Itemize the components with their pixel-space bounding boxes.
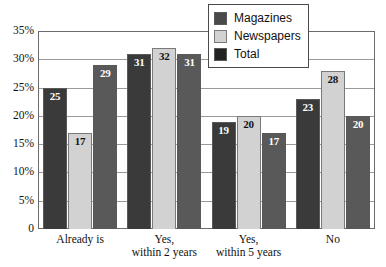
legend-swatch-icon <box>214 30 227 43</box>
y-axis-tick-label: 25% <box>0 82 34 93</box>
x-axis-category-label: No <box>291 233 375 259</box>
x-axis-category-label: Yes,within 5 years <box>207 233 291 259</box>
y-axis-tick-label: 10% <box>0 166 34 177</box>
bar-value-label: 17 <box>263 135 285 147</box>
x-axis-label-line1: Yes, <box>239 233 259 245</box>
bar-value-label: 19 <box>213 124 235 136</box>
x-axis: Already isYes,within 2 yearsYes,within 5… <box>38 233 375 259</box>
x-axis-label-line1: Already is <box>56 233 104 245</box>
bar-groups: 251729313231192017232820 <box>38 31 375 229</box>
legend-item[interactable]: Magazines <box>214 9 301 27</box>
bar[interactable]: 29 <box>93 65 117 229</box>
x-axis-label-line1: Yes, <box>155 233 175 245</box>
legend-item[interactable]: Total <box>214 45 301 63</box>
bar[interactable]: 20 <box>346 116 370 229</box>
y-axis-tick-label: 30% <box>0 53 34 64</box>
bar-slot: 31 <box>127 31 151 229</box>
x-axis-label-line2: within 2 years <box>122 246 206 259</box>
bar[interactable]: 23 <box>296 99 320 229</box>
bar-value-label: 29 <box>94 67 116 79</box>
bar[interactable]: 31 <box>127 54 151 229</box>
legend-item[interactable]: Newspapers <box>214 27 301 45</box>
bar-slot: 25 <box>43 31 67 229</box>
chart-legend: MagazinesNewspapersTotal <box>208 4 309 68</box>
bar-slot: 31 <box>177 31 201 229</box>
bar[interactable]: 32 <box>152 48 176 229</box>
x-axis-label-line1: No <box>326 233 340 245</box>
x-axis-category-label: Yes,within 2 years <box>122 233 206 259</box>
y-axis-tick-label: 20% <box>0 110 34 121</box>
bar-slot: 32 <box>152 31 176 229</box>
y-axis-tick-label: 35% <box>0 25 34 36</box>
bar-value-label: 28 <box>322 73 344 85</box>
legend-item-label: Total <box>234 48 259 61</box>
legend-item-label: Newspapers <box>234 30 301 43</box>
bar-value-label: 25 <box>44 90 66 102</box>
bar[interactable]: 20 <box>237 116 261 229</box>
bar-group: 251729 <box>38 31 122 229</box>
bar-slot: 17 <box>68 31 92 229</box>
bar-value-label: 17 <box>69 135 91 147</box>
bar[interactable]: 17 <box>68 133 92 229</box>
bar-value-label: 32 <box>153 50 175 62</box>
legend-swatch-icon <box>214 48 227 61</box>
bar-slot: 28 <box>321 31 345 229</box>
bar[interactable]: 28 <box>321 71 345 229</box>
y-axis-tick-label: 0 <box>0 223 34 234</box>
bar-group: 313231 <box>122 31 206 229</box>
bar-slot: 29 <box>93 31 117 229</box>
bar[interactable]: 19 <box>212 122 236 229</box>
legend-swatch-icon <box>214 12 227 25</box>
bar-value-label: 20 <box>347 118 369 130</box>
bar-chart: 35%30%25%20%15%10%5%0 251729313231192017… <box>0 0 386 267</box>
y-axis-tick-label: 5% <box>0 195 34 206</box>
bar-slot: 20 <box>346 31 370 229</box>
bar-value-label: 31 <box>178 56 200 68</box>
bar-value-label: 20 <box>238 118 260 130</box>
bar[interactable]: 17 <box>262 133 286 229</box>
bar-value-label: 31 <box>128 56 150 68</box>
y-axis-tick-label: 15% <box>0 138 34 149</box>
bar[interactable]: 31 <box>177 54 201 229</box>
legend-item-label: Magazines <box>234 12 292 25</box>
x-axis-category-label: Already is <box>38 233 122 259</box>
bar[interactable]: 25 <box>43 88 67 229</box>
x-axis-label-line2: within 5 years <box>207 246 291 259</box>
bar-value-label: 23 <box>297 101 319 113</box>
